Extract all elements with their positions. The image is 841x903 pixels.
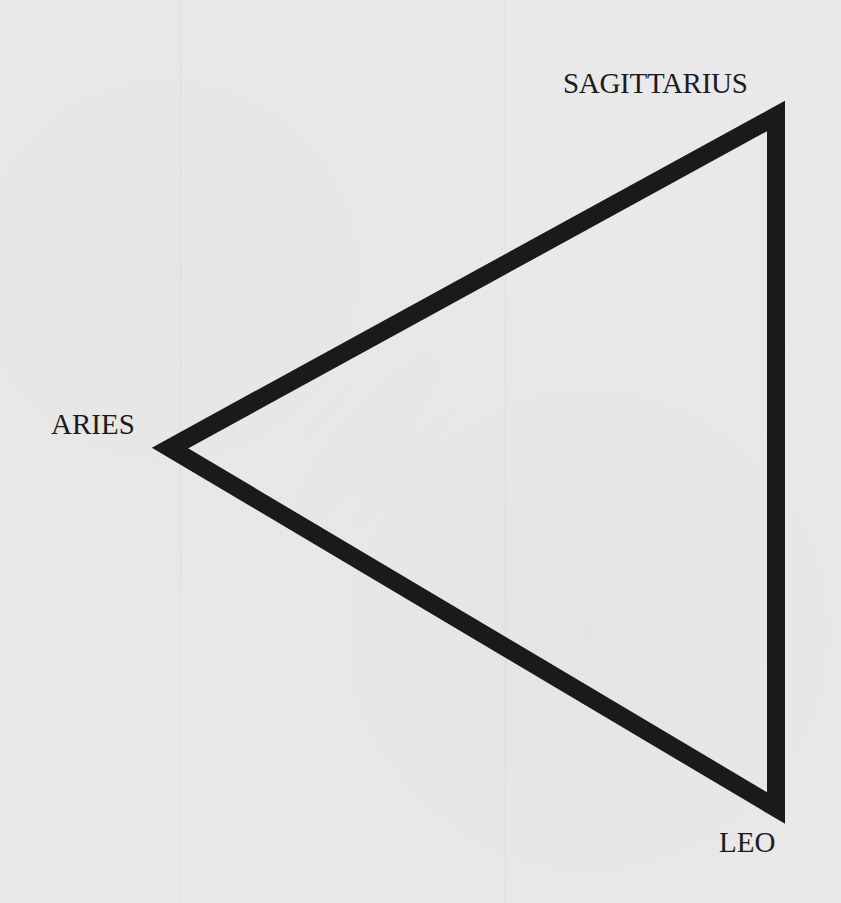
vertex-label-sagittarius: SAGITTARIUS (563, 69, 748, 98)
vertex-label-aries: ARIES (51, 410, 135, 439)
book-page: SAGITTARIUS ARIES LEO (0, 0, 841, 903)
triangle-shape (170, 116, 776, 808)
fire-triangle-diagram (0, 0, 841, 903)
vertex-label-leo: LEO (719, 828, 775, 857)
